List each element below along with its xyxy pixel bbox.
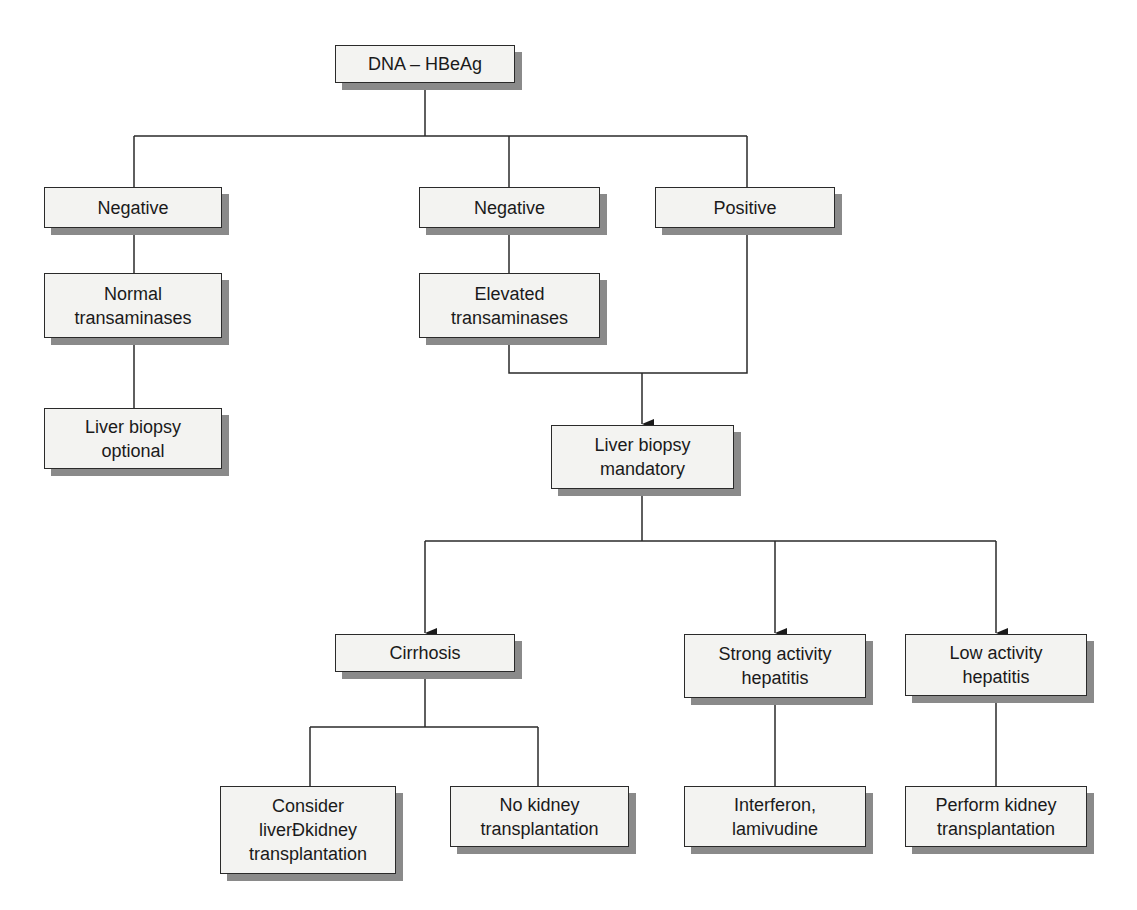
node-liver-biopsy-mandatory: Liver biopsy mandatory	[551, 425, 734, 489]
node-interferon-lamivudine: Interferon, lamivudine	[684, 786, 866, 847]
node-root: DNA – HBeAg	[335, 45, 515, 83]
node-positive: Positive	[655, 187, 835, 228]
node-elevated-transaminases: Elevated transaminases	[419, 273, 600, 338]
node-negative-middle: Negative	[419, 187, 600, 228]
node-consider-liver-kidney: Consider liverÐkidney transplantation	[220, 786, 396, 874]
node-negative-left: Negative	[44, 187, 222, 228]
node-low-activity-hepatitis: Low activity hepatitis	[905, 634, 1087, 696]
node-liver-biopsy-optional: Liver biopsy optional	[44, 408, 222, 469]
node-no-kidney-transplantation: No kidney transplantation	[450, 786, 629, 847]
node-normal-transaminases: Normal transaminases	[44, 273, 222, 338]
node-perform-kidney-transplantation: Perform kidney transplantation	[905, 786, 1087, 847]
node-cirrhosis: Cirrhosis	[335, 634, 515, 672]
node-strong-activity-hepatitis: Strong activity hepatitis	[684, 634, 866, 698]
